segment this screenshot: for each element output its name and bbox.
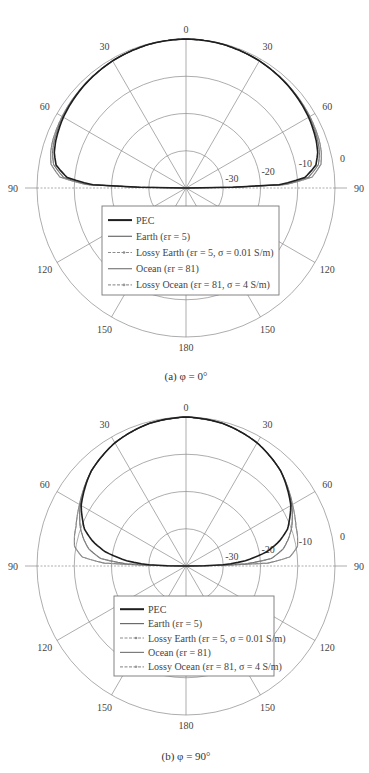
angle-tick-label: 30: [100, 41, 110, 52]
grid-spoke: [186, 59, 261, 188]
radial-tick-label: -10: [299, 158, 312, 169]
grid-spoke: [57, 114, 186, 189]
angle-tick-label: 90: [8, 561, 18, 572]
legend-label: Lossy Earth (εr = 5, σ = 0.01 S/m): [136, 247, 274, 259]
radial-tick-label: -30: [225, 551, 238, 562]
angle-tick-label: 150: [97, 702, 112, 713]
angle-tick-label: 60: [322, 479, 332, 490]
radial-tick-label: -10: [299, 536, 312, 547]
angle-tick-label: 180: [179, 720, 194, 731]
angle-tick-label: 150: [260, 324, 275, 335]
polar-plot-phi-0: 0306090120150180150120906030-30-20-100PE…: [8, 24, 364, 353]
angle-tick-label: 120: [37, 642, 52, 653]
grid-spoke: [112, 437, 187, 566]
polar-plot-phi-90: 0306090120150180150120906030-30-20-100PE…: [8, 402, 364, 731]
radial-tick-label: 0: [340, 531, 345, 542]
angle-tick-label: 60: [322, 101, 332, 112]
grid-spoke: [186, 437, 261, 566]
grid-spoke: [57, 492, 186, 567]
legend-label: PEC: [136, 215, 155, 226]
legend-label: Ocean (εr = 81): [148, 647, 211, 659]
grid-spoke: [112, 59, 187, 188]
legend-label: Lossy Ocean (εr = 81, σ = 4 S/m): [136, 279, 270, 291]
radial-tick-label: -20: [262, 166, 275, 177]
angle-tick-label: 0: [184, 402, 189, 413]
angle-tick-label: 90: [354, 561, 364, 572]
caption-a: (a) φ = 0°: [165, 370, 208, 383]
angle-tick-label: 30: [100, 419, 110, 430]
angle-tick-label: 120: [37, 264, 52, 275]
legend-label: Ocean (εr = 81): [136, 263, 199, 275]
legend-label: Earth (εr = 5): [136, 231, 190, 243]
radial-tick-label: -30: [225, 173, 238, 184]
angle-tick-label: 60: [40, 101, 50, 112]
caption-b: (b) φ = 90°: [161, 750, 210, 763]
angle-tick-label: 60: [40, 479, 50, 490]
legend-marker: [135, 666, 138, 669]
angle-tick-label: 180: [179, 342, 194, 353]
legend-marker: [135, 637, 138, 640]
polar-charts-figure: 0306090120150180150120906030-30-20-100PE…: [0, 0, 369, 773]
angle-tick-label: 30: [263, 419, 273, 430]
angle-tick-label: 150: [97, 324, 112, 335]
angle-tick-label: 90: [354, 183, 364, 194]
legend-marker: [123, 284, 126, 287]
angle-tick-label: 90: [8, 183, 18, 194]
legend-label: Lossy Ocean (εr = 81, σ = 4 S/m): [148, 661, 282, 673]
angle-tick-label: 150: [260, 702, 275, 713]
legend-label: Lossy Earth (εr = 5, σ = 0.01 S/m): [148, 633, 286, 645]
grid-spoke: [186, 114, 315, 189]
angle-tick-label: 120: [320, 264, 335, 275]
angle-tick-label: 120: [320, 642, 335, 653]
radial-tick-label: 0: [340, 153, 345, 164]
angle-tick-label: 30: [263, 41, 273, 52]
grid-spoke: [186, 492, 315, 567]
legend-label: PEC: [148, 604, 167, 615]
angle-tick-label: 0: [184, 24, 189, 35]
legend-marker: [123, 251, 126, 254]
legend-label: Earth (εr = 5): [148, 618, 202, 630]
